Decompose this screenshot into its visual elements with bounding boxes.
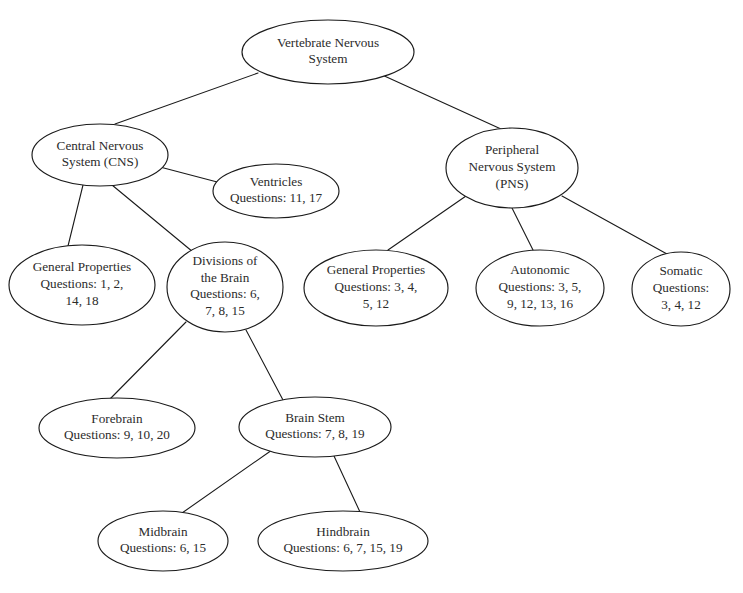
node-label-line: Somatic (659, 263, 702, 278)
node-label-line: Questions: 3, 5, (499, 279, 582, 294)
node-label-line: 14, 18 (66, 293, 99, 308)
node-label-line: Questions: 3, 4, (335, 279, 418, 294)
node-label-line: Hindbrain (316, 524, 370, 539)
node-label-line: Divisions of (193, 253, 258, 268)
concept-map-diagram: Vertebrate NervousSystemCentral NervousS… (0, 0, 743, 593)
node-label-line: Brain Stem (285, 410, 345, 425)
node-label-line: 9, 12, 13, 16 (507, 296, 573, 311)
edge-pns-to-autonomic (512, 208, 533, 250)
node-label-line: Questions: 1, 2, (41, 276, 124, 291)
node-label-somatic: SomaticQuestions:3, 4, 12 (653, 263, 709, 311)
node-vertebrate-nervous-system[interactable]: Vertebrate NervousSystem (242, 20, 414, 84)
node-label-line: Midbrain (138, 524, 187, 539)
node-label-line: the Brain (201, 270, 250, 285)
node-somatic[interactable]: SomaticQuestions:3, 4, 12 (632, 252, 730, 326)
node-label-line: Ventricles (250, 174, 303, 189)
edge-brain-stem-to-hindbrain (334, 456, 360, 512)
node-label-line: (PNS) (496, 176, 529, 191)
node-label-line: Questions: 6, 7, 15, 19 (283, 540, 402, 555)
node-label-line: Forebrain (91, 411, 143, 426)
edge-cns-to-divisions (112, 185, 193, 252)
nodes-layer: Vertebrate NervousSystemCentral NervousS… (9, 20, 730, 571)
node-hindbrain[interactable]: HindbrainQuestions: 6, 7, 15, 19 (258, 511, 428, 571)
node-label-line: Questions: 7, 8, 19 (265, 426, 365, 441)
node-brain-stem[interactable]: Brain StemQuestions: 7, 8, 19 (239, 397, 391, 457)
edge-pns-to-general-properties (388, 196, 466, 250)
node-label-central-nervous-system: Central NervousSystem (CNS) (57, 138, 144, 170)
node-label-line: Questions: 6, (190, 286, 260, 301)
node-label-line: 3, 4, 12 (661, 297, 701, 312)
node-cns-general-properties[interactable]: General PropertiesQuestions: 1, 2,14, 18 (9, 245, 155, 325)
node-label-line: Questions: 6, 15 (120, 540, 206, 555)
node-label-autonomic: AutonomicQuestions: 3, 5,9, 12, 13, 16 (499, 262, 582, 310)
node-label-line: 5, 12 (363, 296, 389, 311)
node-label-line: Nervous System (469, 159, 557, 174)
node-label-line: Questions: 9, 10, 20 (64, 427, 170, 442)
edge-cns-to-ventricles (160, 167, 221, 183)
concept-map-canvas: Vertebrate NervousSystemCentral NervousS… (0, 0, 743, 593)
node-label-line: Central Nervous (57, 138, 144, 153)
edge-pns-to-somatic (562, 196, 667, 254)
edge-cns-to-general-properties (68, 185, 83, 246)
node-ventricles[interactable]: VentriclesQuestions: 11, 17 (213, 164, 339, 218)
node-label-line: Autonomic (510, 262, 569, 277)
node-central-nervous-system[interactable]: Central NervousSystem (CNS) (32, 124, 168, 186)
edge-brain-stem-to-midbrain (182, 450, 272, 513)
node-label-line: General Properties (327, 262, 426, 277)
node-autonomic[interactable]: AutonomicQuestions: 3, 5,9, 12, 13, 16 (476, 250, 604, 326)
node-divisions-of-the-brain[interactable]: Divisions ofthe BrainQuestions: 6,7, 8, … (167, 242, 283, 332)
edge-root-to-cns (115, 73, 258, 124)
node-label-line: 7, 8, 15 (205, 303, 245, 318)
node-peripheral-nervous-system[interactable]: PeripheralNervous System(PNS) (446, 128, 578, 208)
edge-root-to-pns (380, 74, 501, 129)
edge-divisions-to-forebrain (109, 322, 186, 400)
node-label-line: General Properties (33, 259, 132, 274)
node-pns-general-properties[interactable]: General PropertiesQuestions: 3, 4,5, 12 (304, 250, 448, 326)
node-label-line: Questions: (653, 280, 709, 295)
node-label-line: Vertebrate Nervous (277, 35, 379, 50)
node-forebrain[interactable]: ForebrainQuestions: 9, 10, 20 (39, 398, 195, 458)
node-label-line: System (309, 51, 349, 66)
node-label-line: Peripheral (485, 142, 540, 157)
node-midbrain[interactable]: MidbrainQuestions: 6, 15 (98, 511, 228, 571)
edge-divisions-to-brain-stem (246, 330, 283, 400)
node-label-line: Questions: 11, 17 (230, 190, 323, 205)
node-label-line: System (CNS) (62, 154, 139, 169)
